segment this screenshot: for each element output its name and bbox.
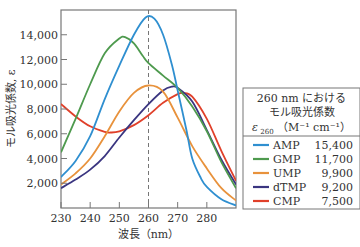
x-tick-label: 270 [167, 212, 188, 225]
legend-header-line-2: モル吸光係数 [269, 105, 335, 119]
y-tick-label: 10,000 [20, 78, 59, 91]
x-axis-title: 波長（nm） [118, 228, 180, 241]
x-tick-label: 260 [138, 212, 159, 225]
y-axis-title: モル吸光係数, ε [4, 69, 18, 148]
legend-value-cmp: 7,500 [322, 195, 354, 208]
legend-value-amp: 15,400 [315, 139, 354, 152]
legend-label-dtmp: dTMP [273, 181, 307, 194]
y-tick-label: 4,000 [27, 153, 59, 166]
y-tick-label: 6,000 [27, 128, 59, 141]
y-tick-label: 2,000 [27, 177, 59, 190]
y-tick-label: 12,000 [20, 54, 59, 67]
legend-value-ump: 9,900 [322, 167, 354, 180]
legend-value-dtmp: 9,200 [322, 181, 354, 194]
legend: 260 nm におけるモル吸光係数ε 260 （M⁻¹ cm⁻¹）AMP15,4… [243, 88, 360, 209]
x-tick-label: 230 [51, 212, 72, 225]
absorption-spectrum-chart: 2302402502602702802,0004,0006,0008,00010… [0, 0, 360, 247]
legend-label-cmp: CMP [273, 195, 301, 208]
y-tick-label: 8,000 [27, 103, 59, 116]
legend-header-line-1: 260 nm における [257, 92, 347, 105]
legend-label-gmp: GMP [273, 153, 301, 166]
x-tick-label: 280 [196, 212, 217, 225]
x-tick-label: 250 [109, 212, 130, 225]
y-tick-label: 14,000 [20, 29, 59, 42]
legend-label-ump: UMP [273, 167, 302, 180]
legend-label-amp: AMP [272, 139, 300, 152]
legend-value-gmp: 11,700 [315, 153, 354, 166]
x-tick-label: 240 [80, 212, 101, 225]
